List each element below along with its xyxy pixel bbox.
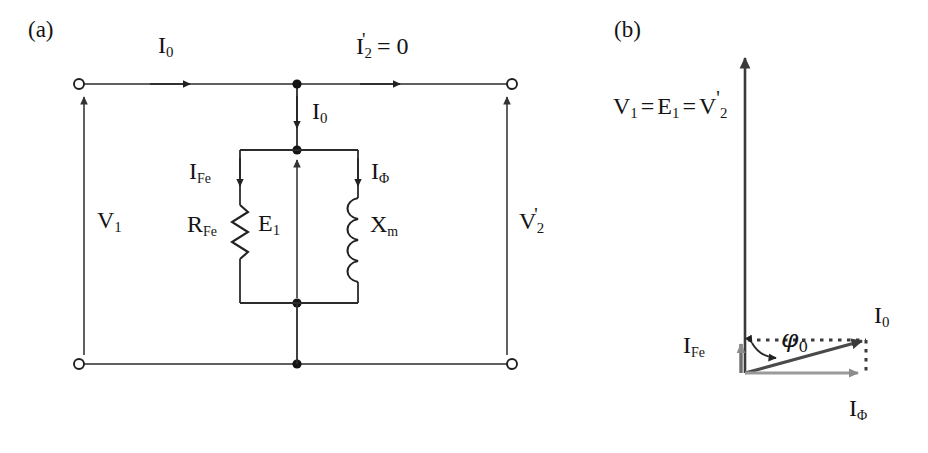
label-iphi-phasor: IΦ xyxy=(849,396,867,423)
label-b-e1-base: E xyxy=(657,93,672,119)
label-i0-primary: I0 xyxy=(158,33,173,60)
secondary-bottom-terminal xyxy=(507,359,517,369)
label-iphi-branch: IΦ xyxy=(371,159,389,186)
label-b-equals-1: = xyxy=(641,93,655,119)
label-iphi-phasor-base: I xyxy=(849,395,857,421)
label-phi0: φ0 xyxy=(781,326,808,355)
label-ife-branch-base: I xyxy=(189,158,197,184)
label-b-v2-base: V xyxy=(699,93,716,119)
panel-a-tag: (a) xyxy=(28,18,54,41)
label-v2-sub: 2 xyxy=(537,220,544,236)
label-rfe: RFe xyxy=(187,212,217,239)
label-i0-phasor: I0 xyxy=(874,303,889,330)
label-e1: E1 xyxy=(258,211,280,238)
label-phi0-sub: 0 xyxy=(799,338,809,356)
label-iphi-phasor-sub: Φ xyxy=(857,408,867,423)
primary-top-terminal xyxy=(74,79,84,89)
label-rfe-sub: Fe xyxy=(203,224,217,239)
secondary-top-terminal xyxy=(507,79,517,89)
label-rfe-base: R xyxy=(187,211,203,237)
label-i0-shunt-sub: 0 xyxy=(320,110,327,126)
node-dot-top-rail xyxy=(292,79,301,88)
label-xm: Xm xyxy=(370,212,398,239)
label-iphi-branch-sub: Φ xyxy=(379,171,389,186)
label-v1-base: V xyxy=(97,207,114,233)
label-i0-shunt: I0 xyxy=(312,99,327,126)
panel-b-tag: (b) xyxy=(614,18,641,41)
label-e1-base: E xyxy=(258,210,273,236)
label-i2-sub: 2 xyxy=(364,45,371,61)
label-ife-phasor-sub: Fe xyxy=(691,345,705,360)
label-ife-branch: IFe xyxy=(189,159,211,186)
label-iphi-branch-base: I xyxy=(371,158,379,184)
label-voltage-equality: V1=E1=V'2 xyxy=(613,88,727,121)
label-b-v2-sub: 2 xyxy=(720,105,727,121)
core-loss-resistor-branch xyxy=(232,150,248,303)
label-ife-phasor: IFe xyxy=(683,333,705,360)
label-ife-branch-sub: Fe xyxy=(197,171,211,186)
label-ife-phasor-base: I xyxy=(683,332,691,358)
label-phi0-base: φ xyxy=(781,324,799,353)
label-b-equals-2: = xyxy=(682,93,696,119)
resistor-symbol xyxy=(232,205,248,259)
label-i0-phasor-base: I xyxy=(874,302,882,328)
inductor-symbol xyxy=(348,198,359,282)
label-xm-sub: m xyxy=(387,224,398,239)
label-v1-sub: 1 xyxy=(114,219,121,235)
label-v1: V1 xyxy=(97,208,122,235)
label-i0-phasor-sub: 0 xyxy=(882,314,889,330)
magnetizing-reactance-branch xyxy=(348,150,359,303)
label-b-v1-sub: 1 xyxy=(630,105,637,121)
label-i0-primary-base: I xyxy=(158,32,166,58)
label-e1-sub: 1 xyxy=(273,222,280,238)
label-b-v1-base: V xyxy=(613,93,630,119)
label-i2-equals-zero: = 0 xyxy=(377,33,409,59)
primary-bottom-terminal xyxy=(74,359,84,369)
label-i0-primary-sub: 0 xyxy=(166,44,173,60)
label-i0-shunt-base: I xyxy=(312,98,320,124)
label-xm-base: X xyxy=(370,211,387,237)
label-i2-prime-zero: I'2= 0 xyxy=(356,30,408,61)
figure-root: (a) (b) I0 I'2= 0 I0 IFe IΦ RFe E1 Xm V1… xyxy=(0,0,928,453)
circuit-and-phasor-svg xyxy=(0,0,928,453)
label-v2-prime: V'2 xyxy=(519,205,544,236)
label-b-e1-sub: 1 xyxy=(672,105,679,121)
phi0-angle-arc xyxy=(752,343,776,358)
